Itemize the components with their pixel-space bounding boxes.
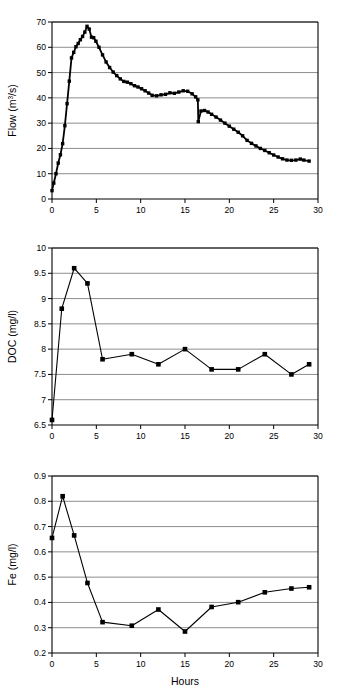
data-point-marker: [147, 91, 150, 94]
y-axis-title-flow: Flow (m3/s): [6, 84, 18, 137]
data-point-marker: [190, 92, 193, 95]
data-point-marker: [186, 90, 189, 93]
y-axis-ticks-fe: 0.20.30.40.50.60.70.80.9: [34, 471, 52, 658]
x-tick-label: 30: [313, 431, 323, 441]
y-tick-label: 60: [36, 42, 46, 52]
data-point-marker: [150, 94, 153, 97]
data-point-marker: [129, 82, 132, 85]
axis-frame-flow: [52, 22, 318, 199]
data-point-marker: [130, 352, 135, 357]
data-point-marker: [206, 110, 209, 113]
data-point-marker: [182, 89, 185, 92]
y-tick-label: 70: [36, 17, 46, 27]
y-tick-label: 7.5: [34, 369, 46, 379]
data-point-marker: [263, 149, 266, 152]
data-point-marker: [59, 153, 62, 156]
y-tick-label: 0.5: [34, 572, 46, 582]
data-point-marker: [50, 418, 55, 423]
y-tick-label: 0.8: [34, 496, 46, 506]
chart-panel-flow: 010203040506070051015202530Flow (m3/s): [0, 8, 338, 236]
data-point-marker: [63, 124, 66, 127]
data-point-marker: [196, 98, 199, 101]
data-markers-flow: [50, 25, 311, 193]
data-point-marker: [72, 266, 77, 271]
y-tick-label: 9: [41, 294, 46, 304]
x-tick-label: 10: [136, 659, 146, 669]
x-tick-label: 30: [313, 205, 323, 215]
chart-panel-doc: 6.577.588.599.510051015202530DOC (mg/l): [0, 236, 338, 464]
x-tick-label: 15: [180, 431, 190, 441]
data-point-marker: [276, 155, 279, 158]
data-point-marker: [214, 115, 217, 118]
y-tick-label: 9.5: [34, 268, 46, 278]
x-tick-label: 5: [94, 659, 99, 669]
data-point-marker: [290, 159, 293, 162]
y-tick-label: 0.9: [34, 471, 46, 481]
x-tick-label: 30: [313, 659, 323, 669]
data-point-marker: [143, 89, 146, 92]
x-tick-label: 20: [225, 205, 235, 215]
data-point-marker: [307, 585, 312, 590]
chart-panel-fe: 0.20.30.40.50.60.70.80.9051015202530Fe (…: [0, 462, 338, 698]
data-point-marker: [164, 93, 167, 96]
y-tick-label: 30: [36, 118, 46, 128]
data-point-marker: [60, 494, 65, 499]
data-point-marker: [259, 147, 262, 150]
data-point-marker: [108, 66, 111, 69]
y-axis-title-doc: DOC (mg/l): [6, 310, 18, 363]
x-tick-label: 25: [269, 205, 279, 215]
data-markers-fe: [50, 494, 312, 634]
data-point-marker: [197, 120, 200, 123]
x-tick-label: 15: [180, 659, 190, 669]
data-point-marker: [72, 533, 77, 538]
data-point-marker: [97, 46, 100, 49]
data-point-marker: [133, 84, 136, 87]
data-point-marker: [285, 158, 288, 161]
gridlines-doc: [52, 248, 318, 425]
x-axis-ticks-flow: 051015202530: [50, 199, 323, 215]
chart-svg-fe: 0.20.30.40.50.60.70.80.9051015202530Fe (…: [0, 462, 338, 698]
data-point-marker: [50, 536, 55, 541]
x-tick-label: 25: [269, 659, 279, 669]
data-point-marker: [130, 623, 135, 628]
data-point-marker: [52, 181, 55, 184]
data-point-marker: [101, 53, 104, 56]
data-point-marker: [156, 362, 161, 367]
x-tick-label: 10: [136, 205, 146, 215]
chart-svg-doc: 6.577.588.599.510051015202530DOC (mg/l): [0, 236, 338, 464]
x-tick-label: 20: [225, 659, 235, 669]
data-point-marker: [92, 36, 95, 39]
y-tick-label: 0: [41, 194, 46, 204]
data-point-marker: [294, 158, 297, 161]
data-point-marker: [263, 590, 268, 595]
data-point-marker: [210, 113, 213, 116]
data-point-marker: [281, 157, 284, 160]
data-point-marker: [228, 124, 231, 127]
data-point-marker: [307, 159, 310, 162]
data-point-marker: [156, 607, 161, 612]
data-point-marker: [236, 600, 241, 605]
data-point-marker: [194, 95, 197, 98]
y-axis-ticks-flow: 010203040506070: [36, 17, 52, 204]
data-point-marker: [155, 94, 158, 97]
data-point-marker: [245, 139, 248, 142]
data-series-line-doc: [52, 268, 309, 420]
data-point-marker: [159, 93, 162, 96]
data-point-marker: [263, 352, 268, 357]
data-point-marker: [289, 372, 294, 377]
gridlines-flow: [52, 22, 318, 199]
data-point-marker: [203, 109, 206, 112]
y-tick-label: 20: [36, 143, 46, 153]
y-tick-label: 8.5: [34, 319, 46, 329]
data-point-marker: [126, 80, 129, 83]
data-point-marker: [59, 306, 64, 311]
y-tick-label: 10: [36, 169, 46, 179]
data-point-marker: [250, 142, 253, 145]
y-tick-label: 0.3: [34, 623, 46, 633]
data-series-line-fe: [52, 496, 309, 631]
x-tick-label: 20: [225, 431, 235, 441]
x-tick-label: 0: [50, 205, 55, 215]
data-point-marker: [79, 38, 82, 41]
y-tick-label: 0.4: [34, 597, 46, 607]
y-tick-label: 6.5: [34, 420, 46, 430]
